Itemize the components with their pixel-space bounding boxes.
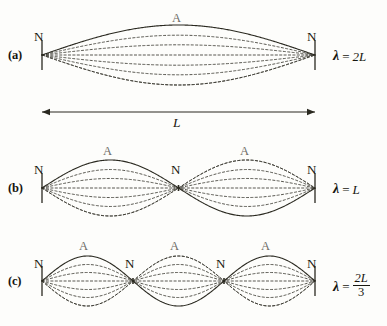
length-arrow-head — [42, 109, 50, 116]
lambda-symbol-a: λ — [333, 49, 339, 63]
standing-wave-figure: (a) (b) (c) L λ = 2L λ = L λ = 2L 3 NNAN… — [0, 0, 387, 326]
node-label-c-2: N — [216, 257, 225, 270]
fraction-denominator-c: 3 — [353, 285, 370, 299]
length-label-L: L — [173, 116, 181, 130]
node-label-a-0: N — [34, 30, 43, 43]
wavelength-label-b: λ = L — [333, 182, 360, 196]
node-label-b-1: N — [171, 163, 180, 176]
antinode-label-b-0: A — [103, 145, 112, 158]
lambda-symbol-b: λ — [333, 182, 339, 196]
fraction-numerator-c: 2L — [353, 272, 370, 285]
node-label-b-2: N — [307, 163, 316, 176]
antinode-label-a-0: A — [172, 12, 181, 25]
length-arrow-head — [307, 109, 315, 116]
wavelength-value-b: L — [353, 183, 360, 196]
node-label-c-0: N — [34, 257, 43, 270]
node-label-c-1: N — [125, 257, 134, 270]
wavelength-value-a: 2L — [353, 50, 367, 63]
equals-symbol-b: = — [342, 183, 349, 196]
node-label-a-1: N — [307, 30, 316, 43]
antinode-label-c-1: A — [170, 240, 179, 253]
panel-id-a: (a) — [8, 49, 22, 62]
wavelength-label-a: λ = 2L — [333, 49, 366, 63]
node-label-b-0: N — [34, 163, 43, 176]
equals-symbol-a: = — [342, 50, 349, 63]
antinode-label-c-0: A — [79, 240, 88, 253]
panel-id-c: (c) — [8, 275, 21, 288]
antinode-label-b-1: A — [240, 145, 249, 158]
equals-symbol-c: = — [342, 280, 349, 293]
wavelength-fraction-c: 2L 3 — [353, 272, 370, 299]
lambda-symbol-c: λ — [333, 280, 339, 294]
wave-diagram-canvas — [0, 0, 387, 326]
wavelength-label-c: λ = 2L 3 — [333, 273, 370, 300]
figure-caption — [40, 316, 360, 326]
panel-id-b: (b) — [8, 182, 23, 195]
node-label-c-3: N — [307, 257, 316, 270]
antinode-label-c-2: A — [261, 240, 270, 253]
